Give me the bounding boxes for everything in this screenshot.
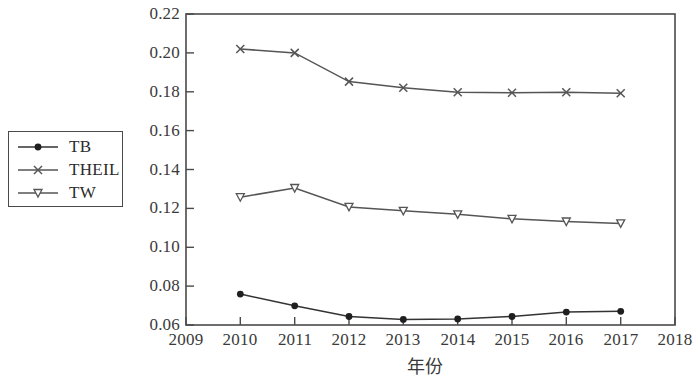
y-tick-label-008: 0.08 <box>126 276 180 296</box>
y-tick-label-012: 0.12 <box>126 198 180 218</box>
y-tick-label-020: 0.20 <box>126 43 180 63</box>
line-chart-figure: 0.22 0.20 0.18 0.16 0.14 0.12 0.10 0.08 … <box>0 0 698 378</box>
x-axis-title: 年份 <box>381 352 469 378</box>
chart-legend: TB THEIL TW <box>8 131 123 207</box>
legend-marker-open-triangle-down-icon <box>15 182 61 204</box>
legend-marker-cross-x-icon <box>15 159 61 181</box>
legend-item-theil[interactable]: THEIL <box>15 159 120 181</box>
plot-frame <box>186 14 675 325</box>
y-tick-label-018: 0.18 <box>126 82 180 102</box>
legend-label-theil: THEIL <box>69 160 120 180</box>
y-tick-label-022: 0.22 <box>126 4 180 24</box>
x-tick-label-2018: 2018 <box>643 330 698 350</box>
legend-label-tw: TW <box>69 183 96 203</box>
legend-marker-filled-circle-icon <box>15 136 61 158</box>
y-tick-label-014: 0.14 <box>126 160 180 180</box>
y-tick-label-010: 0.10 <box>126 237 180 257</box>
y-tick-label-016: 0.16 <box>126 121 180 141</box>
legend-label-tb: TB <box>69 137 91 157</box>
legend-item-tb[interactable]: TB <box>15 136 91 158</box>
legend-item-tw[interactable]: TW <box>15 182 96 204</box>
